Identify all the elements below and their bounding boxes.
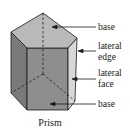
- label-lateral-edge-line2: edge: [98, 52, 116, 62]
- label-base-bottom: base: [98, 99, 115, 109]
- label-lateral-face-line1: lateral: [98, 68, 122, 78]
- right-lateral-face: [68, 38, 77, 110]
- front-lateral-face: [27, 48, 68, 110]
- label-base-top: base: [98, 22, 115, 32]
- prism-diagram: base lateral edge lateral face base Pris…: [0, 0, 130, 131]
- label-lateral-face-line2: face: [98, 79, 114, 89]
- diagram-caption: Prism: [38, 117, 62, 128]
- label-lateral-edge-line1: lateral: [98, 41, 122, 51]
